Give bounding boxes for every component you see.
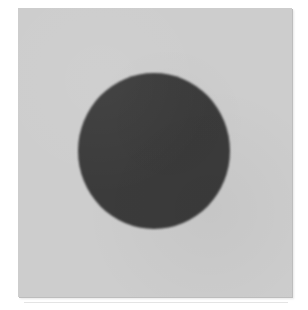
dark-circle	[78, 73, 230, 229]
gray-card	[18, 8, 292, 297]
scanned-photo-page: { "image": { "description": "Grainy scan…	[0, 0, 308, 310]
scan-artifact-line	[24, 302, 288, 303]
